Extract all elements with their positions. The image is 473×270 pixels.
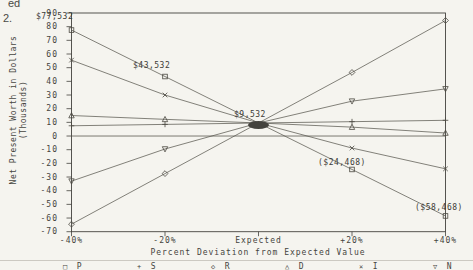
legend-item-label: N: [437, 262, 451, 270]
y-tick-label: 40: [34, 77, 58, 86]
legend-item-N: ▽ N: [433, 262, 452, 270]
x-tick-label: -20%: [153, 236, 176, 245]
y-tick-label: -50: [34, 200, 58, 209]
x-tick-label: Expected: [235, 236, 282, 245]
y-tick-label: 20: [34, 104, 58, 113]
expected-crossing-blob: [248, 121, 269, 129]
y-tick-label: -40: [34, 186, 58, 195]
legend-item-label: D: [289, 262, 303, 270]
x-axis-title: Percent Deviation from Expected Value: [150, 248, 365, 257]
y-axis-title-units: (Thousands): [19, 10, 29, 210]
y-tick-label: -10: [34, 145, 58, 154]
legend-item-I: × I: [359, 262, 378, 270]
sensitivity-chart: Net Present Worth in Dollars (Thousands)…: [0, 0, 473, 270]
chart-canvas: [0, 0, 473, 270]
legend-item-label: R: [215, 262, 229, 270]
x-marker-icon: [163, 93, 168, 98]
series-line-N: [72, 89, 446, 181]
legend-item-S: + S: [137, 262, 156, 270]
legend-item-label: P: [67, 262, 81, 270]
y-tick-label: 70: [34, 36, 58, 45]
legend-item-R: ◇ R: [211, 262, 230, 270]
x-tick-label: -40%: [60, 236, 83, 245]
y-tick-label: -70: [34, 227, 58, 236]
scanned-chart-page: ed 2. Net Present Worth in Dollars (Thou…: [0, 0, 473, 270]
data-label: $43,532: [133, 61, 170, 70]
plus-marker-icon: [443, 117, 449, 123]
y-tick-label: 10: [34, 118, 58, 127]
legend-item-D: △ D: [285, 262, 304, 270]
x-tick-label: +40%: [434, 236, 457, 245]
y-tick-label: 0: [34, 132, 58, 141]
y-tick-label: 30: [34, 91, 58, 100]
bottom-rule-divider: [0, 260, 473, 261]
y-axis-title-block: Net Present Worth in Dollars (Thousands): [9, 10, 29, 210]
plus-marker-icon: [69, 123, 75, 129]
y-tick-label: 80: [34, 22, 58, 31]
legend-item-label: S: [141, 262, 155, 270]
y-axis-title: Net Present Worth in Dollars: [9, 10, 19, 210]
data-label: $77,532: [36, 12, 73, 21]
legend-item-label: I: [363, 262, 377, 270]
y-tick-label: -30: [34, 173, 58, 182]
y-tick-label: -20: [34, 159, 58, 168]
y-tick-label: 50: [34, 63, 58, 72]
x-tick-label: +20%: [340, 236, 363, 245]
data-label: $9,532: [234, 110, 266, 119]
y-tick-label: -60: [34, 214, 58, 223]
plus-marker-icon: [162, 122, 168, 128]
data-label: ($24,468): [318, 158, 366, 167]
data-label: ($58,468): [415, 203, 463, 212]
y-tick-label: 60: [34, 50, 58, 59]
legend-item-P: □ P: [63, 262, 82, 270]
